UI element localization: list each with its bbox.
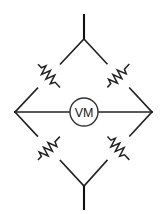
resistor-top-left bbox=[35, 61, 64, 91]
resistor-bottom-right bbox=[104, 133, 133, 163]
resistor-top-left-zigzag bbox=[35, 61, 64, 91]
circuit-svg: VM bbox=[0, 0, 165, 214]
arm-bottom-left bbox=[15, 112, 37, 136]
resistor-bottom-left bbox=[35, 133, 64, 163]
circuit-diagram: VM bbox=[0, 0, 165, 214]
arm-top-right bbox=[84, 39, 107, 64]
voltmeter-label: VM bbox=[75, 106, 93, 120]
arm-bottom-right-lower bbox=[84, 161, 107, 187]
resistor-bottom-left-zigzag bbox=[35, 133, 64, 163]
arm-top-right-lower bbox=[130, 88, 152, 112]
arm-top-left bbox=[61, 39, 85, 64]
resistor-bottom-right-zigzag bbox=[104, 133, 133, 163]
arm-top-left-lower bbox=[15, 88, 38, 112]
arm-bottom-left-lower bbox=[60, 161, 84, 186]
resistor-top-right-zigzag bbox=[104, 61, 133, 91]
resistor-top-right bbox=[104, 61, 133, 91]
arm-bottom-right bbox=[130, 112, 152, 136]
voltmeter: VM bbox=[70, 98, 98, 126]
